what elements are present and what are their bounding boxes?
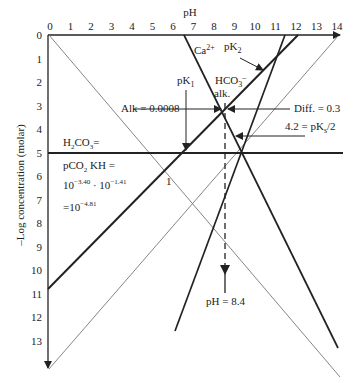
- svg-text:pCO2 KH =: pCO2 KH =: [63, 159, 115, 174]
- svg-text:2: 2: [37, 76, 43, 88]
- svg-text:12: 12: [31, 311, 42, 323]
- x-tick-labels: 0 1 2 3 4 5 6 7 8 9 10 11 12 13 14: [47, 20, 343, 32]
- svg-text:7: 7: [191, 20, 197, 32]
- chart-canvas: pH 0 1 2 3 4 5 6 7 8 9 10 11 12 13 14 0 …: [0, 0, 357, 383]
- svg-text:9: 9: [232, 20, 238, 32]
- hco3-line: [48, 35, 298, 289]
- svg-text:10: 10: [31, 264, 43, 276]
- svg-text:6: 6: [37, 170, 43, 182]
- svg-text:H2CO3=: H2CO3=: [63, 136, 99, 151]
- svg-text:14: 14: [332, 20, 344, 32]
- svg-text:10−3.40 · 10−1.41: 10−3.40 · 10−1.41: [63, 178, 127, 191]
- alk-label: alk.: [214, 87, 230, 99]
- ca-label: Ca2+: [194, 43, 215, 56]
- pk2-arrow: [240, 58, 263, 70]
- svg-text:4: 4: [37, 123, 43, 135]
- svg-text:6: 6: [170, 20, 176, 32]
- svg-text:1: 1: [68, 20, 74, 32]
- pk2-label: pK2: [224, 40, 241, 55]
- pk1-label: pK1: [177, 74, 194, 89]
- svg-text:4: 4: [129, 20, 135, 32]
- svg-text:0: 0: [47, 20, 53, 32]
- diff-label: Diff. = 0.3: [294, 102, 341, 114]
- intersection-1-label: 1: [166, 175, 172, 187]
- svg-text:10: 10: [250, 20, 262, 32]
- h2co3-annotation: H2CO3= pCO2 KH = 10−3.40 · 10−1.41 =10−4…: [63, 136, 127, 213]
- y-tick-labels: 0 1 2 3 4 5 6 7 8 9 10 11 12 13: [31, 29, 43, 347]
- svg-text:13: 13: [31, 335, 43, 347]
- svg-text:=10−4.81: =10−4.81: [63, 200, 97, 213]
- svg-text:11: 11: [270, 20, 281, 32]
- svg-text:9: 9: [37, 241, 43, 253]
- svg-text:12: 12: [291, 20, 302, 32]
- svg-text:7: 7: [37, 194, 43, 206]
- svg-text:1: 1: [37, 53, 43, 65]
- svg-text:11: 11: [31, 288, 42, 300]
- pks-label: 4.2 = pKs/2: [285, 120, 336, 135]
- svg-text:8: 8: [37, 217, 43, 229]
- svg-text:0: 0: [37, 29, 43, 41]
- ph-result-label: pH = 8.4: [206, 295, 245, 307]
- svg-text:3: 3: [109, 20, 115, 32]
- svg-text:13: 13: [311, 20, 323, 32]
- down-arrow-icon: [220, 265, 230, 275]
- svg-text:5: 5: [37, 147, 43, 159]
- y-axis-title: –Log concentration (molar): [14, 124, 27, 247]
- svg-text:2: 2: [88, 20, 94, 32]
- svg-text:3: 3: [37, 100, 43, 112]
- svg-text:8: 8: [211, 20, 217, 32]
- svg-text:5: 5: [150, 20, 156, 32]
- alk-value-label: Alk = 0.0008: [121, 102, 180, 114]
- x-axis-title: pH: [183, 6, 197, 18]
